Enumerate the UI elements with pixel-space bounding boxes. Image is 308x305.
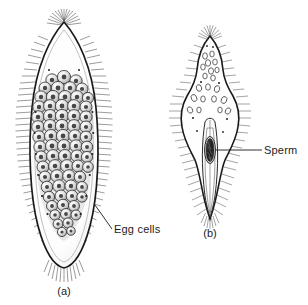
figure-container: Egg cells (a) bbox=[0, 0, 308, 305]
label-egg-cells: Egg cells bbox=[114, 223, 161, 235]
caption-panel-a: (a) bbox=[57, 285, 70, 297]
label-sperm: Sperm bbox=[264, 144, 297, 156]
figure-illustration: Egg cells (a) bbox=[0, 0, 308, 305]
sperm-mass-b bbox=[205, 137, 216, 164]
caption-panel-b: (b) bbox=[203, 227, 216, 239]
